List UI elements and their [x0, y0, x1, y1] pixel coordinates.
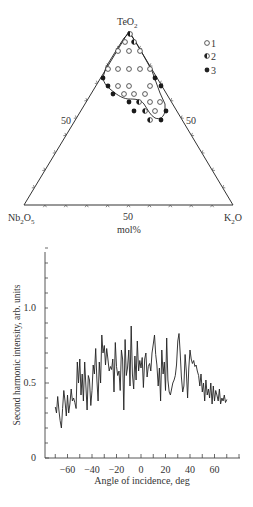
- composition-point: [106, 84, 111, 89]
- x-tick-label: 40: [185, 464, 195, 475]
- composition-point: [116, 84, 121, 89]
- composition-point: [153, 109, 158, 114]
- composition-point: [158, 100, 163, 105]
- axis-unit-label: mol%: [117, 224, 141, 235]
- composition-point: [116, 49, 121, 54]
- composition-point: [127, 100, 132, 105]
- composition-point: [128, 32, 133, 37]
- composition-point: [138, 49, 143, 54]
- composition-point: [148, 118, 153, 123]
- y-tick-label-0.5: 0.5: [24, 377, 37, 388]
- vertex-label-nb2o5: Nb2O5: [8, 212, 35, 226]
- filled-circle-icon: [205, 68, 210, 73]
- y-axis: 0 0.5 1.0 Second harmonic intensity, arb…: [12, 248, 49, 463]
- x-tick-label: −20: [109, 464, 125, 475]
- shg-data-line: [55, 326, 227, 428]
- vertex-label-k2o: K2O: [224, 212, 242, 226]
- x-tick-label: 60: [210, 464, 220, 475]
- ternary-triangle: [24, 31, 233, 205]
- x-axis-label: Angle of incidence, deg: [94, 475, 190, 486]
- composition-point: [127, 84, 132, 89]
- composition-point: [153, 76, 158, 81]
- composition-point: [101, 76, 106, 81]
- open-circle-icon: [205, 41, 210, 46]
- composition-point: [148, 67, 153, 72]
- legend-label-1: 1: [211, 38, 216, 49]
- legend-label-2: 2: [211, 51, 216, 62]
- composition-point: [143, 92, 148, 97]
- vertex-label-teo2: TeO2: [117, 16, 138, 30]
- legend-item-half: 2: [205, 51, 216, 62]
- composition-point: [132, 109, 137, 114]
- composition-point: [122, 92, 127, 97]
- composition-point: [132, 92, 137, 97]
- composition-point: [148, 84, 153, 89]
- x-tick-label: 20: [161, 464, 171, 475]
- y-axis-label: Second harmonic intensity, arb. units: [12, 284, 22, 425]
- composition-point: [111, 92, 116, 97]
- composition-point: [123, 40, 128, 45]
- ternary-points: [101, 32, 169, 123]
- right-edge-50-label: 50: [186, 115, 196, 126]
- legend-label-3: 3: [211, 65, 216, 76]
- composition-point: [143, 109, 148, 114]
- x-tick-label: −60: [60, 464, 76, 475]
- composition-point: [148, 100, 153, 105]
- composition-point: [159, 118, 164, 123]
- legend: 1 2 3: [205, 38, 216, 76]
- composition-point: [116, 67, 121, 72]
- legend-item-filled: 3: [205, 65, 216, 76]
- composition-point: [132, 40, 137, 45]
- composition-point: [106, 67, 111, 72]
- ternary-diagram: TeO2 Nb2O5 K2O 50 50 50 mol% 1 2 3: [0, 0, 253, 240]
- legend-item-open: 1: [205, 38, 216, 49]
- bottom-edge-50-label: 50: [123, 211, 133, 222]
- composition-point: [164, 109, 169, 114]
- composition-point: [159, 84, 164, 89]
- composition-point: [127, 49, 132, 54]
- x-tick-label: −40: [84, 464, 100, 475]
- composition-point: [138, 67, 143, 72]
- x-axis: −60−40−200204060 Angle of incidence, deg: [45, 454, 240, 486]
- composition-point: [137, 100, 142, 105]
- y-tick-label-1.0: 1.0: [24, 302, 37, 313]
- left-edge-50-label: 50: [61, 115, 71, 126]
- y-tick-label-0: 0: [31, 452, 36, 463]
- composition-point: [127, 67, 132, 72]
- x-tick-label: 0: [139, 464, 144, 475]
